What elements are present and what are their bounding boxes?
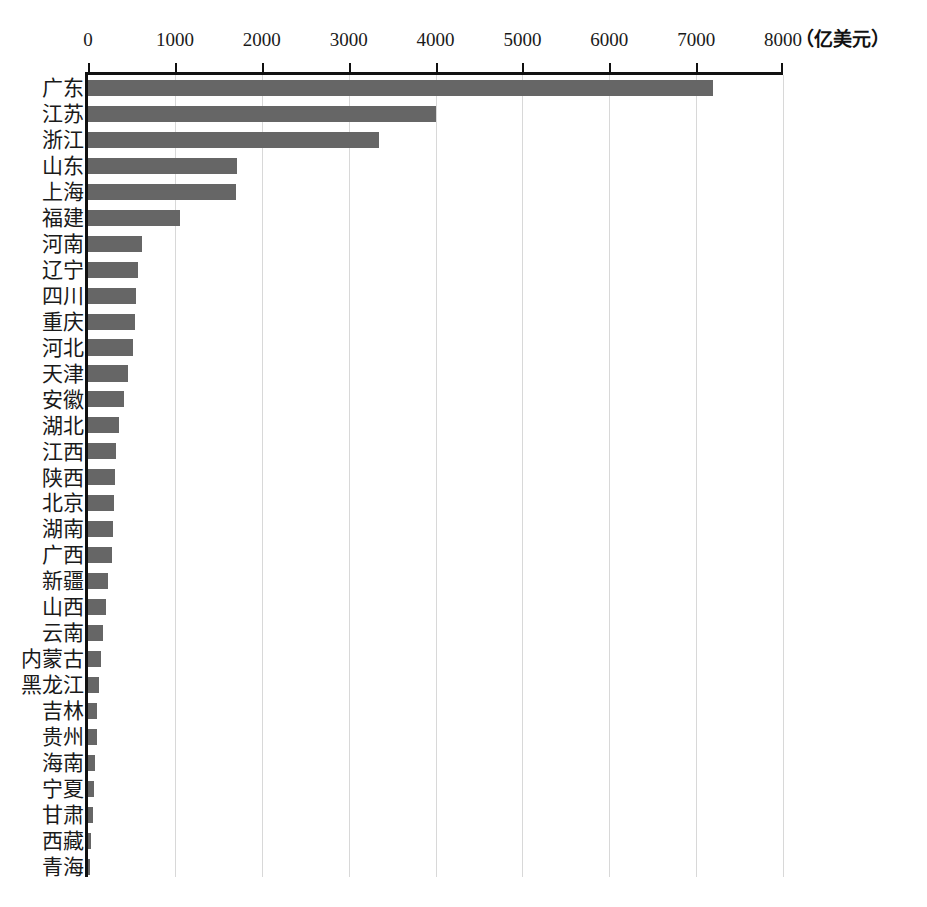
bar-row: [88, 179, 783, 205]
bar: [88, 521, 113, 537]
bar-row: [88, 854, 783, 880]
bar-row: [88, 750, 783, 776]
bar: [88, 80, 713, 96]
bar-row: [88, 205, 783, 231]
bar: [88, 184, 236, 200]
x-axis-unit-label: （亿美元）: [795, 28, 890, 52]
bar-row: [88, 776, 783, 802]
bar: [88, 314, 135, 330]
bar-row: [88, 464, 783, 490]
bar-rows: [88, 75, 783, 880]
y-category-label: 江西: [42, 442, 84, 463]
bar-row: [88, 153, 783, 179]
y-category-label: 山东: [42, 156, 84, 177]
bar-row: [88, 828, 783, 854]
y-category-label: 安徽: [42, 390, 84, 411]
bar-row: [88, 594, 783, 620]
bar: [88, 158, 237, 174]
bar: [88, 547, 112, 563]
y-category-label: 湖北: [42, 416, 84, 437]
y-category-label: 上海: [42, 182, 84, 203]
y-category-label: 内蒙古: [21, 649, 84, 670]
bar: [88, 132, 379, 148]
axis-tick-mark: [781, 63, 783, 75]
y-category-label: 山西: [42, 597, 84, 618]
plot-area: [88, 72, 783, 877]
bar: [88, 833, 91, 849]
y-category-label: 云南: [42, 623, 84, 644]
y-category-label: 北京: [42, 493, 84, 514]
x-axis-tick-labels: 010002000300040005000600070008000（亿美元）: [0, 28, 927, 56]
horizontal-bar-chart: 010002000300040005000600070008000（亿美元） 广…: [0, 0, 927, 907]
bar-row: [88, 698, 783, 724]
bar-row: [88, 620, 783, 646]
y-category-label: 河南: [42, 234, 84, 255]
y-category-label: 广东: [42, 78, 84, 99]
x-tick-label: 1000: [156, 28, 194, 52]
y-category-label: 陕西: [42, 468, 84, 489]
bar-row: [88, 127, 783, 153]
bar-row: [88, 438, 783, 464]
axis-tick-mark: [436, 63, 438, 73]
y-category-label: 海南: [42, 753, 84, 774]
bar: [88, 210, 180, 226]
bar: [88, 262, 138, 278]
bar-row: [88, 335, 783, 361]
y-category-label: 新疆: [42, 571, 84, 592]
bar: [88, 106, 436, 122]
bar-row: [88, 101, 783, 127]
y-category-label: 广西: [42, 545, 84, 566]
bar: [88, 469, 115, 485]
axis-tick-mark: [609, 63, 611, 73]
y-category-label: 青海: [42, 857, 84, 878]
axis-tick-mark: [349, 63, 351, 73]
bar: [88, 495, 114, 511]
axis-tick-mark: [88, 63, 90, 75]
y-category-label: 甘肃: [42, 805, 84, 826]
y-category-label: 西藏: [42, 831, 84, 852]
y-category-label: 江苏: [42, 104, 84, 125]
bar: [88, 781, 94, 797]
bar-row: [88, 802, 783, 828]
bar-row: [88, 646, 783, 672]
y-category-label: 黑龙江: [21, 675, 84, 696]
bar: [88, 703, 97, 719]
bar-row: [88, 672, 783, 698]
y-category-label: 重庆: [42, 312, 84, 333]
bar: [88, 365, 128, 381]
bar: [88, 573, 108, 589]
x-tick-label: 7000: [677, 28, 715, 52]
y-category-label: 河北: [42, 338, 84, 359]
bar-row: [88, 309, 783, 335]
bar: [88, 391, 124, 407]
bar: [88, 288, 136, 304]
y-category-label: 福建: [42, 208, 84, 229]
axis-tick-mark: [262, 63, 264, 73]
bar-row: [88, 542, 783, 568]
y-category-label: 四川: [42, 286, 84, 307]
bar: [88, 599, 106, 615]
bar-row: [88, 283, 783, 309]
bar: [88, 755, 95, 771]
bar-row: [88, 490, 783, 516]
bar-row: [88, 568, 783, 594]
bar: [88, 729, 97, 745]
bar: [88, 339, 133, 355]
axis-tick-mark: [175, 63, 177, 73]
bar-row: [88, 724, 783, 750]
x-tick-label: 2000: [243, 28, 281, 52]
x-tick-label: 3000: [330, 28, 368, 52]
bar-row: [88, 360, 783, 386]
bar: [88, 417, 119, 433]
y-category-label: 天津: [42, 364, 84, 385]
x-tick-label: 0: [83, 28, 93, 52]
x-tick-label: 6000: [590, 28, 628, 52]
y-category-label: 贵州: [42, 727, 84, 748]
bar: [88, 651, 101, 667]
axis-tick-mark: [696, 63, 698, 73]
bar: [88, 677, 99, 693]
bar-row: [88, 231, 783, 257]
bar-row: [88, 516, 783, 542]
bar: [88, 443, 116, 459]
y-category-label: 浙江: [42, 130, 84, 151]
